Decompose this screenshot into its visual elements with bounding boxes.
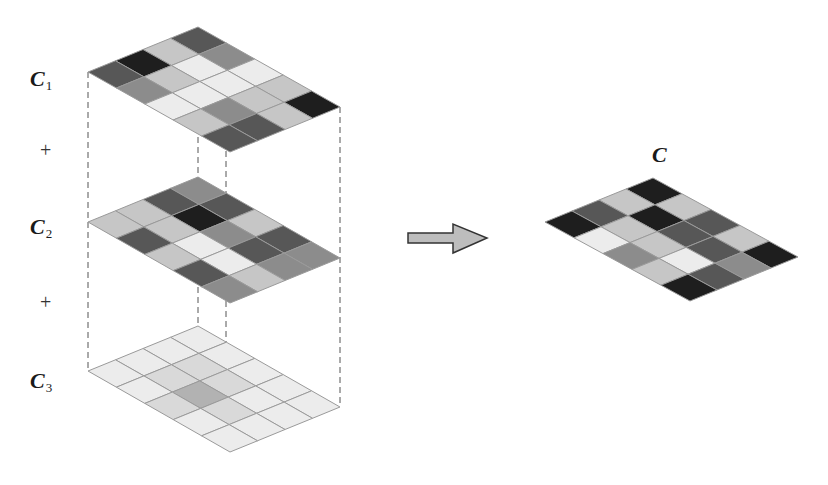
right-arrow-icon bbox=[408, 224, 487, 253]
matrix-plane-c bbox=[545, 178, 798, 301]
label-c2: C2 bbox=[30, 216, 52, 240]
label-c3: C3 bbox=[30, 370, 52, 394]
label-c-result: C bbox=[652, 144, 667, 166]
diagram-canvas: C1 + C2 + C3 C bbox=[0, 0, 828, 485]
plus-sign-2: + bbox=[40, 292, 51, 312]
matrix-plane-c2 bbox=[88, 177, 340, 303]
matrix-plane-c1 bbox=[88, 27, 340, 152]
plus-sign-1: + bbox=[40, 140, 51, 160]
matrix-plane-c3 bbox=[88, 326, 340, 452]
label-c1: C1 bbox=[30, 68, 52, 92]
diagram-svg bbox=[0, 0, 828, 485]
